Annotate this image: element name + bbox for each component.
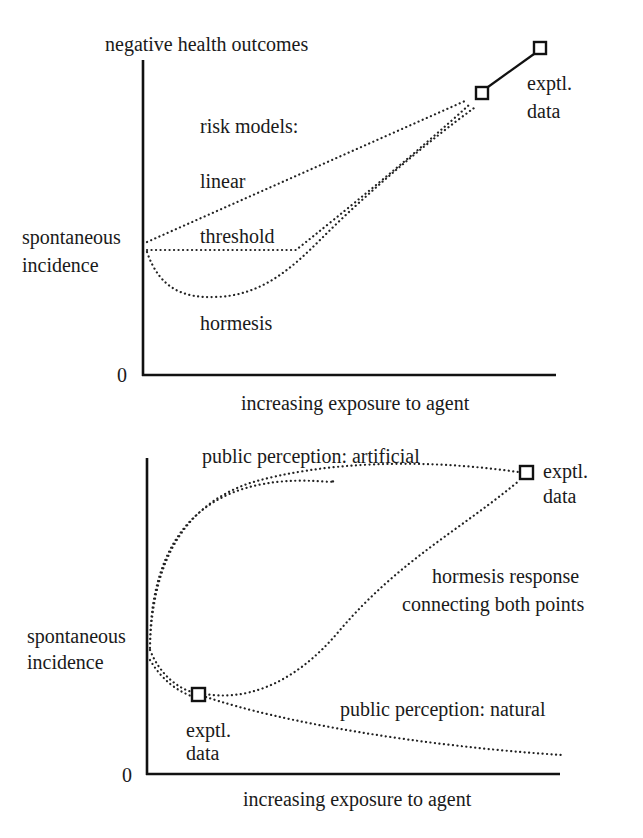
bottom-baseline-label-2: incidence [27, 651, 104, 673]
high-data-label-2: data [543, 485, 576, 507]
top-baseline-label-1: spontaneous [22, 226, 121, 249]
hormesis-response-curve [150, 480, 520, 696]
label-hormesis-response-1: hormesis response [432, 565, 579, 588]
high-data-label-1: exptl. [543, 460, 588, 483]
top-y-axis-label: negative health outcomes [105, 33, 308, 56]
bottom-chart: increasing exposure to agent 0 spontaneo… [27, 445, 588, 811]
label-natural: public perception: natural [340, 698, 546, 721]
top-data-label-2: data [527, 100, 560, 122]
bottom-x-axis-label: increasing exposure to agent [243, 788, 472, 811]
top-x-axis-label: increasing exposure to agent [241, 392, 470, 415]
top-data-label-1: exptl. [527, 72, 572, 95]
label-linear: linear [200, 170, 246, 192]
bottom-low-data-point [192, 688, 205, 701]
artificial-curve [150, 464, 518, 648]
linear-curve [147, 101, 465, 242]
low-data-label-2: data [186, 742, 219, 764]
top-baseline-label-2: incidence [22, 254, 99, 276]
bottom-origin-label: 0 [122, 764, 132, 786]
low-data-label-1: exptl. [186, 719, 231, 742]
hormesis-figure: negative health outcomes increasing expo… [0, 0, 643, 838]
bottom-high-data-point [520, 466, 533, 479]
top-legend-title: risk models: [200, 115, 298, 137]
threshold-curve [147, 104, 470, 250]
bottom-baseline-label-1: spontaneous [27, 625, 126, 648]
label-hormesis: hormesis [200, 312, 272, 334]
top-chart: negative health outcomes increasing expo… [22, 33, 572, 415]
label-hormesis-response-2: connecting both points [402, 593, 584, 616]
hormesis-response-lower [150, 660, 191, 696]
label-threshold: threshold [200, 225, 274, 247]
top-origin-label: 0 [117, 364, 127, 386]
top-data-point-1 [476, 87, 488, 99]
top-data-point-2 [534, 42, 546, 54]
hormesis-curve [147, 108, 474, 297]
